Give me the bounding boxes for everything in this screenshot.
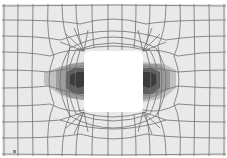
fem-mesh-figure [0,0,227,158]
hole [84,51,143,112]
corner-mark [13,150,16,153]
